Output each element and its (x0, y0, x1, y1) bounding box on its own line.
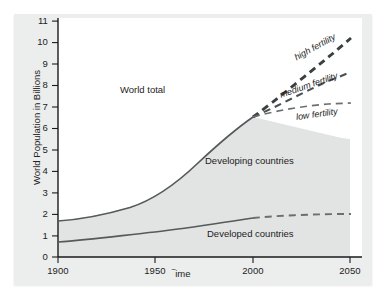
y-tick-label-10: 10 (26, 36, 48, 47)
x-tick-label-2050: 2050 (330, 265, 370, 276)
y-tick-label-0: 0 (26, 251, 48, 262)
y-tick-label-2: 2 (26, 208, 48, 219)
x-tick-label-2000: 2000 (233, 265, 273, 276)
y-axis-ticks (52, 21, 58, 257)
x-axis-title: ‾ime (172, 268, 190, 279)
chart-figure: 11 10 9 8 7 6 5 4 3 2 1 0 1900 1950 2000… (0, 0, 387, 293)
annotation-developed-countries: Developed countries (207, 228, 294, 239)
y-tick-label-1: 1 (26, 230, 48, 241)
annotation-world-total: World total (120, 84, 165, 95)
x-tick-label-1950: 1950 (135, 265, 175, 276)
x-axis-ticks (58, 257, 350, 263)
y-tick-label-11: 11 (26, 15, 48, 26)
annotation-developing-countries: Developing countries (205, 155, 294, 166)
x-tick-label-1900: 1900 (38, 265, 78, 276)
y-axis-title: World Population in Billions (31, 48, 42, 208)
